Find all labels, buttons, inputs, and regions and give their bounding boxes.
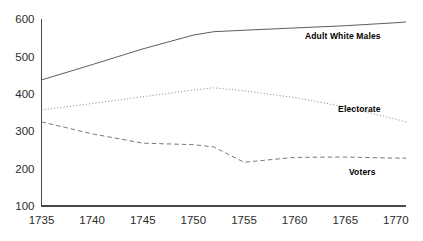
y-axis-tick-label: 500 [15,51,34,63]
chart-container: 1002003004005006001735174017451750175517… [0,0,423,241]
series-label-electorate: Electorate [338,104,381,114]
x-axis-tick-label: 1735 [29,214,55,226]
y-axis-tick-label: 100 [15,200,34,212]
x-axis-tick-label: 1770 [383,214,409,226]
x-axis-tick-label: 1755 [231,214,257,226]
series-label-voters: Voters [349,167,376,177]
y-axis-tick-label: 200 [15,163,34,175]
line-chart: 1002003004005006001735174017451750175517… [0,0,423,241]
x-axis-tick-label: 1740 [79,214,105,226]
y-axis-tick-label: 300 [15,125,34,137]
series-label-adult-white-males: Adult White Males [305,31,381,41]
y-axis-tick-label: 600 [15,13,34,25]
x-axis-tick-label: 1760 [282,214,308,226]
series-line-voters [42,122,407,162]
x-axis-tick-label: 1745 [130,214,156,226]
x-axis-tick-label: 1750 [181,214,207,226]
y-axis-tick-label: 400 [15,88,34,100]
x-axis-tick-label: 1765 [332,214,358,226]
